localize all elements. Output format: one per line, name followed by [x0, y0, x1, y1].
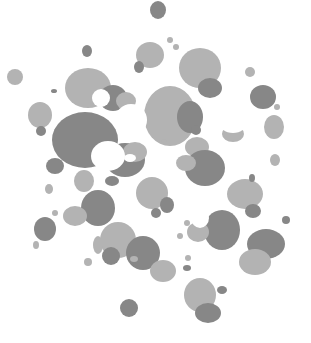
light-blob: [184, 220, 190, 226]
dark-blob: [217, 286, 227, 294]
dark-blob: [82, 45, 92, 57]
blob-artwork: [0, 0, 311, 343]
white-hole: [92, 89, 110, 107]
light-blob: [173, 44, 179, 50]
light-blob: [74, 170, 94, 192]
light-blob: [274, 104, 280, 110]
dark-blob: [34, 217, 56, 241]
light-blob: [177, 233, 183, 239]
dark-blob: [195, 303, 221, 323]
dark-blob: [150, 1, 166, 19]
light-blob: [227, 179, 263, 209]
light-blob: [63, 206, 87, 226]
light-blob: [84, 258, 92, 266]
light-blob: [150, 260, 176, 282]
light-blob: [7, 69, 23, 85]
dark-blob: [120, 299, 138, 317]
light-blob: [45, 184, 53, 194]
dark-blob: [46, 158, 64, 174]
light-blob: [270, 154, 280, 166]
dark-blob: [250, 85, 276, 109]
light-blob: [93, 236, 103, 254]
dark-blob: [183, 265, 191, 271]
light-blob: [176, 155, 196, 171]
dark-blob: [191, 125, 201, 135]
light-blob: [167, 37, 173, 43]
white-hole: [219, 111, 247, 133]
light-blob: [264, 115, 284, 139]
light-blob: [33, 241, 39, 249]
dark-blob: [51, 89, 57, 93]
dark-blob: [151, 208, 161, 218]
dark-blob: [134, 61, 144, 73]
dark-blob: [160, 197, 174, 213]
dark-blob: [245, 204, 261, 218]
dark-blob: [282, 216, 290, 224]
dark-blob: [102, 247, 120, 265]
light-blob: [161, 139, 167, 143]
light-blob: [185, 255, 191, 261]
dark-blob: [204, 210, 240, 250]
dark-blob: [81, 190, 115, 226]
dark-blob: [198, 78, 222, 98]
light-blob: [245, 67, 255, 77]
dark-blob: [105, 176, 119, 186]
white-hole: [124, 154, 136, 162]
white-hole: [115, 104, 147, 136]
dark-blob: [249, 174, 255, 182]
abstract-blob-pattern: [0, 0, 311, 343]
white-hole: [91, 141, 125, 171]
light-blob: [28, 102, 52, 128]
light-blob: [130, 256, 138, 262]
light-blob: [52, 210, 58, 216]
white-hole: [191, 208, 209, 228]
dark-blob: [36, 126, 46, 136]
light-blob: [239, 249, 271, 275]
